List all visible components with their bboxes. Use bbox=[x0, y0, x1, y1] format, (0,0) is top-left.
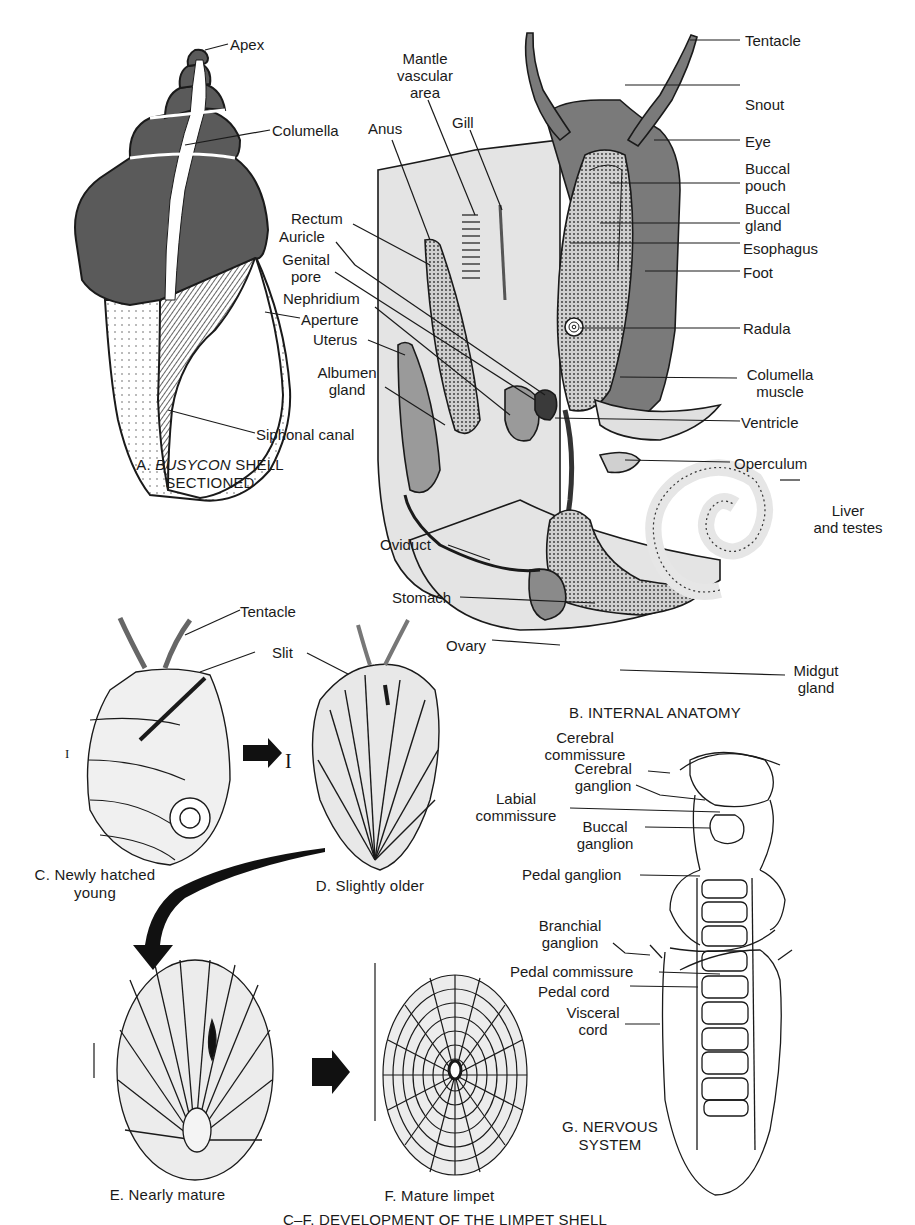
label-buccal-gland-line1: Buccal bbox=[745, 200, 790, 217]
label-buccal-pouch-line1: Buccal bbox=[745, 160, 790, 177]
nervous-system bbox=[650, 753, 792, 1196]
label-buccal-pouch: Buccal pouch bbox=[745, 160, 790, 194]
label-genital-line2: pore bbox=[278, 268, 334, 285]
label-mantle-line2: vascular bbox=[385, 67, 465, 84]
label-branchial-line1: Branchial bbox=[530, 917, 610, 934]
label-apex: Apex bbox=[230, 36, 264, 53]
arrow-c-to-d bbox=[243, 738, 282, 768]
label-midgut-line2: gland bbox=[785, 679, 847, 696]
label-visceral-line2: cord bbox=[560, 1021, 626, 1038]
label-buccal-gland-line2: gland bbox=[745, 217, 790, 234]
caption-a-genus: BUSYCON bbox=[155, 456, 231, 473]
label-visceral-cord: Visceral cord bbox=[560, 1004, 626, 1038]
caption-a-line2: SECTIONED bbox=[165, 474, 254, 491]
label-snout: Snout bbox=[745, 96, 784, 113]
label-liver-line2: and testes bbox=[805, 519, 891, 536]
label-cerebral-commissure-line1: Cerebral bbox=[535, 729, 635, 746]
label-rectum: Rectum bbox=[291, 210, 343, 227]
label-anus: Anus bbox=[368, 120, 402, 137]
label-auricle: Auricle bbox=[279, 228, 325, 245]
caption-panel-g: G. NERVOUS SYSTEM bbox=[550, 1118, 670, 1154]
label-tentacle-c: Tentacle bbox=[240, 603, 296, 620]
newly-hatched-shell: I bbox=[65, 618, 230, 865]
caption-panel-a: A. BUSYCON SHELL SECTIONED bbox=[120, 456, 300, 492]
label-eye: Eye bbox=[745, 133, 771, 150]
label-labial-commissure: Labial commissure bbox=[466, 790, 566, 824]
caption-c-line2: young bbox=[15, 884, 175, 902]
label-foot: Foot bbox=[743, 264, 773, 281]
caption-panel-c: C. Newly hatched young bbox=[15, 866, 175, 902]
label-pedal-commissure: Pedal commissure bbox=[510, 963, 633, 980]
label-mantle-line3: area bbox=[385, 84, 465, 101]
label-columella-muscle-line1: Columella bbox=[740, 366, 820, 383]
label-labial-line1: Labial bbox=[466, 790, 566, 807]
label-branchial-ganglion: Branchial ganglion bbox=[530, 917, 610, 951]
label-nephridium: Nephridium bbox=[283, 290, 360, 307]
label-buccal-ganglion: Buccal ganglion bbox=[570, 818, 640, 852]
caption-a-prefix: A. bbox=[136, 456, 151, 473]
caption-panel-d: D. Slightly older bbox=[300, 877, 440, 895]
label-genital-pore: Genital pore bbox=[278, 251, 334, 285]
caption-c-line1: C. Newly hatched bbox=[15, 866, 175, 884]
label-siphonal-canal: Siphonal canal bbox=[256, 426, 354, 443]
label-cerebral-commissure: Cerebral commissure bbox=[535, 729, 635, 763]
label-slit: Slit bbox=[272, 644, 293, 661]
label-columella: Columella bbox=[272, 122, 339, 139]
label-columella-muscle-line2: muscle bbox=[740, 383, 820, 400]
label-midgut-line1: Midgut bbox=[785, 662, 847, 679]
label-tentacle-b: Tentacle bbox=[745, 32, 801, 49]
caption-g-line1: G. NERVOUS bbox=[550, 1118, 670, 1136]
label-mantle-line1: Mantle bbox=[385, 50, 465, 67]
label-buccal-ganglion-line2: ganglion bbox=[570, 835, 640, 852]
caption-panel-e: E. Nearly mature bbox=[100, 1186, 235, 1204]
caption-panel-b: B. INTERNAL ANATOMY bbox=[530, 704, 780, 722]
label-mantle-vascular-area: Mantle vascular area bbox=[385, 50, 465, 101]
mature-limpet-shell bbox=[375, 963, 527, 1175]
label-labial-line2: commissure bbox=[466, 807, 566, 824]
caption-g-line2: SYSTEM bbox=[550, 1136, 670, 1154]
label-ovary: Ovary bbox=[446, 637, 486, 654]
label-visceral-line1: Visceral bbox=[560, 1004, 626, 1021]
label-operculum: Operculum bbox=[734, 455, 807, 472]
label-oviduct: Oviduct bbox=[380, 536, 431, 553]
label-albumen-line1: Albumen bbox=[312, 364, 382, 381]
label-midgut-gland: Midgut gland bbox=[785, 662, 847, 696]
caption-panel-cf: C–F. DEVELOPMENT OF THE LIMPET SHELL bbox=[250, 1211, 640, 1225]
label-uterus: Uterus bbox=[313, 331, 357, 348]
slightly-older-shell bbox=[313, 620, 440, 870]
label-cerebral-ganglion-line2: ganglion bbox=[568, 777, 638, 794]
caption-a-suffix: SHELL bbox=[235, 456, 284, 473]
label-cerebral-ganglion: Cerebral ganglion bbox=[568, 760, 638, 794]
label-stomach: Stomach bbox=[392, 589, 451, 606]
internal-anatomy bbox=[378, 33, 765, 630]
label-liver-testes: Liver and testes bbox=[805, 502, 891, 536]
label-buccal-pouch-line2: pouch bbox=[745, 177, 790, 194]
label-columella-muscle: Columella muscle bbox=[740, 366, 820, 400]
label-buccal-gland: Buccal gland bbox=[745, 200, 790, 234]
label-esophagus: Esophagus bbox=[743, 240, 818, 257]
arrow-e-to-f bbox=[312, 1050, 350, 1094]
label-albumen-line2: gland bbox=[312, 381, 382, 398]
label-albumen-gland: Albumen gland bbox=[312, 364, 382, 398]
label-ventricle: Ventricle bbox=[741, 414, 799, 431]
caption-panel-f: F. Mature limpet bbox=[372, 1187, 507, 1205]
svg-text:I: I bbox=[65, 746, 69, 761]
label-aperture: Aperture bbox=[301, 311, 359, 328]
label-pedal-cord: Pedal cord bbox=[538, 983, 610, 1000]
label-gill: Gill bbox=[452, 114, 474, 131]
nearly-mature-shell bbox=[117, 960, 273, 1180]
label-branchial-line2: ganglion bbox=[530, 934, 610, 951]
label-genital-line1: Genital bbox=[278, 251, 334, 268]
label-liver-line1: Liver bbox=[805, 502, 891, 519]
label-cerebral-ganglion-line1: Cerebral bbox=[568, 760, 638, 777]
svg-text:I: I bbox=[285, 750, 292, 772]
label-pedal-ganglion: Pedal ganglion bbox=[522, 866, 621, 883]
label-buccal-ganglion-line1: Buccal bbox=[570, 818, 640, 835]
label-radula: Radula bbox=[743, 320, 791, 337]
